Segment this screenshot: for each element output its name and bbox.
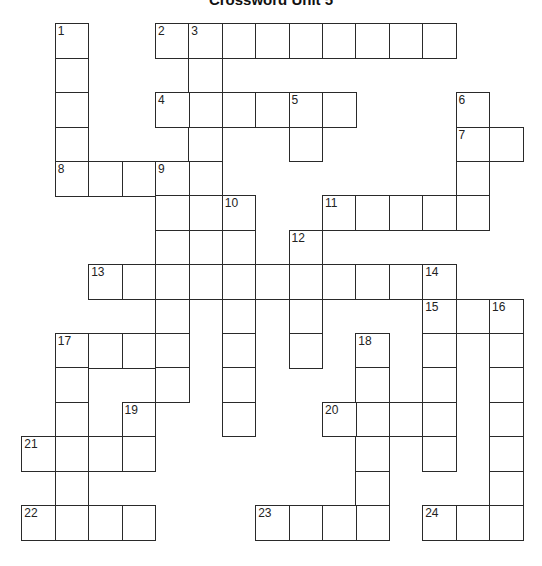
crossword-cell[interactable]	[222, 230, 257, 266]
crossword-cell[interactable]	[222, 333, 257, 369]
crossword-cell[interactable]: 21	[21, 436, 56, 472]
crossword-cell[interactable]: 8	[55, 161, 90, 197]
crossword-cell[interactable]	[188, 58, 223, 94]
crossword-cell[interactable]	[355, 367, 390, 403]
crossword-cell[interactable]	[222, 264, 257, 300]
crossword-cell[interactable]	[456, 299, 491, 335]
crossword-cell[interactable]	[456, 195, 491, 231]
crossword-cell[interactable]	[322, 92, 357, 128]
crossword-cell[interactable]	[88, 333, 123, 369]
crossword-cell[interactable]	[122, 436, 157, 472]
crossword-cell[interactable]	[55, 471, 90, 507]
crossword-cell[interactable]	[289, 299, 324, 335]
crossword-cell[interactable]	[489, 333, 524, 369]
crossword-cell[interactable]	[55, 92, 90, 128]
crossword-cell[interactable]	[188, 92, 223, 128]
crossword-cell[interactable]	[389, 195, 424, 231]
crossword-cell[interactable]: 22	[21, 505, 56, 541]
crossword-cell[interactable]	[322, 264, 357, 300]
crossword-cell[interactable]	[155, 195, 190, 231]
crossword-cell[interactable]	[88, 505, 123, 541]
crossword-cell[interactable]	[188, 230, 223, 266]
crossword-cell[interactable]	[355, 264, 390, 300]
crossword-cell[interactable]: 19	[122, 402, 157, 438]
crossword-cell[interactable]	[122, 505, 157, 541]
crossword-cell[interactable]	[456, 161, 491, 197]
crossword-cell[interactable]	[55, 367, 90, 403]
crossword-cell[interactable]	[489, 471, 524, 507]
crossword-cell[interactable]: 6	[456, 92, 491, 128]
crossword-cell[interactable]	[55, 58, 90, 94]
crossword-cell[interactable]	[389, 23, 424, 59]
crossword-cell[interactable]: 1	[55, 23, 90, 59]
crossword-cell[interactable]	[355, 505, 390, 541]
crossword-cell[interactable]	[355, 402, 390, 438]
crossword-cell[interactable]	[122, 264, 157, 300]
crossword-cell[interactable]	[389, 402, 424, 438]
crossword-cell[interactable]	[422, 195, 457, 231]
crossword-cell[interactable]	[456, 505, 491, 541]
crossword-cell[interactable]: 16	[489, 299, 524, 335]
crossword-cell[interactable]: 17	[55, 333, 90, 369]
crossword-cell[interactable]: 24	[422, 505, 457, 541]
crossword-cell[interactable]: 15	[422, 299, 457, 335]
crossword-cell[interactable]: 3	[188, 23, 223, 59]
crossword-cell[interactable]	[289, 505, 324, 541]
crossword-cell[interactable]: 7	[456, 127, 491, 163]
crossword-cell[interactable]	[188, 195, 223, 231]
crossword-cell[interactable]	[355, 436, 390, 472]
crossword-cell[interactable]: 2	[155, 23, 190, 59]
crossword-cell[interactable]	[289, 264, 324, 300]
crossword-cell[interactable]	[88, 161, 123, 197]
crossword-cell[interactable]	[389, 264, 424, 300]
crossword-cell[interactable]	[188, 127, 223, 163]
crossword-cell[interactable]	[355, 471, 390, 507]
crossword-cell[interactable]	[155, 367, 190, 403]
crossword-cell[interactable]: 18	[355, 333, 390, 369]
crossword-cell[interactable]	[289, 333, 324, 369]
crossword-cell[interactable]: 13	[88, 264, 123, 300]
crossword-cell[interactable]	[422, 367, 457, 403]
crossword-cell[interactable]	[122, 161, 157, 197]
crossword-cell[interactable]	[222, 367, 257, 403]
crossword-cell[interactable]	[188, 264, 223, 300]
crossword-cell[interactable]: 9	[155, 161, 190, 197]
crossword-cell[interactable]	[422, 23, 457, 59]
crossword-cell[interactable]	[355, 23, 390, 59]
crossword-cell[interactable]	[422, 436, 457, 472]
crossword-cell[interactable]: 20	[322, 402, 357, 438]
crossword-cell[interactable]	[489, 127, 524, 163]
crossword-cell[interactable]	[289, 23, 324, 59]
crossword-cell[interactable]	[289, 127, 324, 163]
crossword-cell[interactable]	[422, 402, 457, 438]
crossword-cell[interactable]	[55, 436, 90, 472]
crossword-cell[interactable]: 12	[289, 230, 324, 266]
crossword-cell[interactable]	[422, 333, 457, 369]
crossword-cell[interactable]	[155, 333, 190, 369]
crossword-cell[interactable]	[489, 402, 524, 438]
crossword-cell[interactable]	[322, 23, 357, 59]
crossword-cell[interactable]: 14	[422, 264, 457, 300]
crossword-cell[interactable]	[88, 436, 123, 472]
crossword-cell[interactable]	[222, 92, 257, 128]
crossword-cell[interactable]	[255, 23, 290, 59]
crossword-cell[interactable]	[55, 505, 90, 541]
crossword-cell[interactable]	[489, 367, 524, 403]
crossword-cell[interactable]	[322, 505, 357, 541]
crossword-cell[interactable]: 10	[222, 195, 257, 231]
crossword-cell[interactable]	[155, 230, 190, 266]
crossword-cell[interactable]	[55, 127, 90, 163]
crossword-cell[interactable]	[255, 92, 290, 128]
crossword-cell[interactable]	[489, 436, 524, 472]
crossword-cell[interactable]: 23	[255, 505, 290, 541]
crossword-cell[interactable]	[55, 402, 90, 438]
crossword-cell[interactable]	[355, 195, 390, 231]
crossword-cell[interactable]: 5	[289, 92, 324, 128]
crossword-cell[interactable]: 4	[155, 92, 190, 128]
crossword-cell[interactable]	[255, 264, 290, 300]
crossword-cell[interactable]	[222, 402, 257, 438]
crossword-cell[interactable]	[489, 505, 524, 541]
crossword-cell[interactable]	[222, 23, 257, 59]
crossword-cell[interactable]	[222, 299, 257, 335]
crossword-cell[interactable]: 11	[322, 195, 357, 231]
